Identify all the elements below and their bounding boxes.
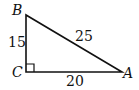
side-label-ca: 20 <box>66 73 84 89</box>
triangle-diagram: B C A 15 25 20 <box>0 0 139 90</box>
side-label-bc: 15 <box>8 34 26 50</box>
vertex-label-c: C <box>12 64 23 80</box>
side-label-ab: 25 <box>75 28 93 44</box>
right-angle-marker <box>26 64 34 72</box>
vertex-label-b: B <box>11 2 22 18</box>
triangle-abc <box>26 15 122 72</box>
vertex-label-a: A <box>121 65 133 81</box>
